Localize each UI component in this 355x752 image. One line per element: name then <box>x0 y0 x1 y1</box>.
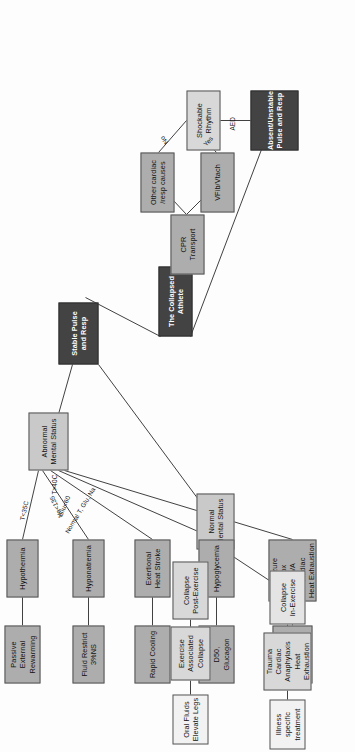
node-cpr-transport-label: CPRTransport <box>178 228 197 260</box>
node-abnormal-mental-status[interactable]: AbnormalMental Status <box>28 412 68 470</box>
node-exertional-heat-stroke[interactable]: ExertionalHeat Stroke <box>134 539 170 597</box>
node-normal-mental-status-label: NormalMental Status <box>206 498 225 544</box>
node-hyponatremia[interactable]: Hyponatremia <box>72 539 104 597</box>
node-rapid-cooling-label: Rapid Cooling <box>147 630 156 677</box>
node-absent-pulse[interactable]: Absent/UnstablePulse and Resp <box>250 90 298 150</box>
node-root[interactable]: The Collapsed Athlete <box>158 266 192 336</box>
node-other-cardiac-resp-causes[interactable]: Other cardiac/resp causes <box>140 152 174 212</box>
node-hyponatremia-label: Hyponatremia <box>83 545 92 592</box>
node-illness-specific-treatment-2[interactable]: Illness specifictreatment <box>269 699 305 749</box>
flowchart-rotated-canvas: The Collapsed Athlete Stable Pulseand Re… <box>0 0 355 752</box>
node-exertional-heat-stroke-label: ExertionalHeat Stroke <box>143 548 162 588</box>
node-vfib-vtach-label: VFib/Vtach <box>212 164 221 201</box>
node-illness-specific-treatment-2-label: Illness specifictreatment <box>273 702 301 746</box>
node-vfib-vtach[interactable]: VFib/Vtach <box>200 152 234 212</box>
node-collapse-post-exercise[interactable]: CollapsePost-Exercise <box>172 561 208 619</box>
node-fluid-restrict-label: Fluid Restrict3%NS <box>79 632 98 676</box>
node-shockable-rhythm-label: ShockableRhythm <box>194 103 213 138</box>
node-root-label: The Collapsed Athlete <box>166 269 185 333</box>
node-trauma-group-label: TraumaCardiacAnaphylaxisHeat Exhaustion <box>264 635 311 687</box>
node-collapse-post-exercise-label: CollapsePost-Exercise <box>181 567 200 613</box>
node-exercise-associated-collapse[interactable]: ExerciseAssociatedCollapse <box>170 626 210 680</box>
node-exercise-associated-collapse-label: ExerciseAssociatedCollapse <box>176 635 204 672</box>
node-other-cardiac-resp-causes-label: Other cardiac/resp causes <box>148 159 167 204</box>
node-stable-pulse[interactable]: Stable Pulseand Resp <box>58 302 98 364</box>
node-collapse-in-exercise[interactable]: CollapseIn-Exercise <box>269 570 305 624</box>
node-passive-rewarming[interactable]: PassiveExternalRewarming <box>4 625 40 683</box>
node-oral-fluids-elevate-legs[interactable]: Oral FluidsElevate Legs <box>172 694 208 744</box>
node-rapid-cooling[interactable]: Rapid Cooling <box>134 625 170 683</box>
node-abnormal-mental-status-label: AbnormalMental Status <box>39 418 58 464</box>
node-absent-pulse-label: Absent/UnstablePulse and Resp <box>265 90 284 149</box>
node-passive-rewarming-label: PassiveExternalRewarming <box>8 635 36 673</box>
edge-label-t-gt-40: T>40C <box>50 474 57 494</box>
node-fluid-restrict[interactable]: Fluid Restrict3%NS <box>72 625 104 683</box>
diagram-canvas: The Collapsed Athlete Stable Pulseand Re… <box>0 0 355 752</box>
node-trauma-group[interactable]: TraumaCardiacAnaphylaxisHeat Exhaustion <box>263 632 311 690</box>
node-oral-fluids-elevate-legs-label: Oral FluidsElevate Legs <box>181 697 200 740</box>
node-hypoglycemia-label: Hypoglycemia <box>211 544 220 591</box>
node-cpr-transport[interactable]: CPRTransport <box>170 214 204 274</box>
edge-label-aed: AED <box>228 117 235 130</box>
node-hypothermia[interactable]: Hypothermia <box>6 539 38 597</box>
node-hypothermia-label: Hypothermia <box>17 547 26 589</box>
node-stable-pulse-label: Stable Pulseand Resp <box>69 311 88 356</box>
node-collapse-in-exercise-label: CollapseIn-Exercise <box>278 578 297 616</box>
